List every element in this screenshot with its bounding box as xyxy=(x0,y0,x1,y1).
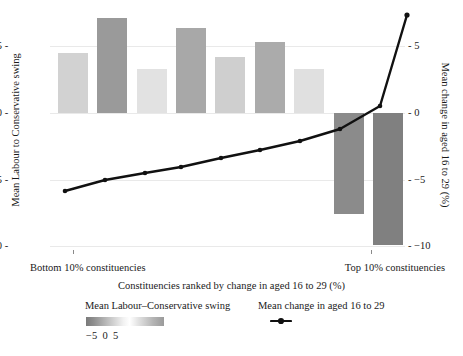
legend-colorbar-ticks: −5 0 5 xyxy=(86,330,176,341)
colorbar-tick-5: 5 xyxy=(113,330,118,341)
y-axis-right-tick-neg5-label: −5 xyxy=(414,174,425,185)
legend-colorbar-swing xyxy=(86,317,164,326)
chart-figure: 5 - 0 - −5 - −10 - - 5 - 0 - −5 - −10 Me… xyxy=(0,0,463,356)
tick-dash: - xyxy=(2,175,7,185)
y-axis-left-title: Mean Labour to Conservative swing xyxy=(10,10,24,250)
tick-dash: - xyxy=(2,108,7,118)
legend-title-line: Mean change in aged 16 to 29 xyxy=(258,300,385,311)
x-axis-title: Constituencies ranked by change in aged … xyxy=(0,280,463,291)
y-axis-left-tick-neg5: −5 - xyxy=(0,175,7,185)
y-axis-right-title: Mean change in aged 16 to 29 (%) xyxy=(437,10,451,260)
y-axis-right-tick-5-label: 5 xyxy=(414,40,419,51)
tick-dash: - xyxy=(2,41,7,51)
y-axis-right-tick-neg10-label: −10 xyxy=(414,240,430,251)
x-category-bottom-decile: Bottom 10% constituencies xyxy=(30,262,146,273)
y-axis-right-tick-5: - 5 xyxy=(408,41,419,51)
legend: Mean Labour–Conservative swing −5 0 5 Me… xyxy=(0,300,463,356)
y-axis-right-tick-neg5: - −5 xyxy=(408,175,425,185)
plot-area xyxy=(50,10,405,250)
y-axis-right-tick-0: - 0 xyxy=(408,108,419,118)
line-path xyxy=(65,15,407,191)
legend-title-swing: Mean Labour–Conservative swing xyxy=(85,300,230,311)
y-axis-right-tick-0-label: 0 xyxy=(414,107,419,118)
x-tick-right xyxy=(371,250,372,254)
y-axis-left-tick-0: 0 - xyxy=(0,108,7,118)
tick-dash: - xyxy=(2,241,7,251)
y-axis-left-tick-neg10: −10 - xyxy=(0,241,7,251)
y-axis-left-tick-5: 5 - xyxy=(0,41,7,51)
legend-line-marker-icon xyxy=(270,316,292,326)
colorbar-tick-neg5: −5 xyxy=(86,330,97,341)
colorbar-tick-0: 0 xyxy=(102,330,107,341)
x-category-top-decile: Top 10% constituencies xyxy=(345,262,445,273)
line-series-mean-change xyxy=(50,10,405,250)
line-markers xyxy=(63,12,410,193)
x-tick-left xyxy=(73,250,74,254)
y-axis-right-tick-neg10: - −10 xyxy=(408,241,431,251)
